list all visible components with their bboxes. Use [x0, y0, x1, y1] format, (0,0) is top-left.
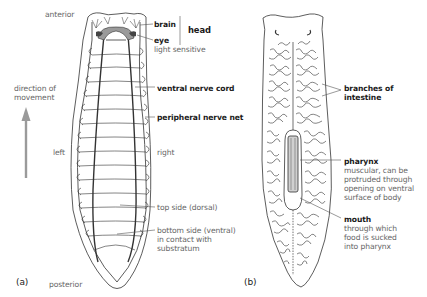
eye-label: eye [154, 36, 169, 45]
posterior-label: posterior [49, 280, 82, 289]
right-label: right [157, 148, 174, 157]
panel-b-body [262, 14, 331, 287]
panel-a-body [71, 13, 151, 289]
intestine-label-line2: intestine [344, 93, 381, 102]
ventral-nerve-cord-label: ventral nerve cord [157, 84, 234, 93]
brain-label: brain [154, 20, 176, 29]
movement-label-line2: movement [14, 93, 54, 102]
ventral-label-line3: substratum [157, 244, 200, 253]
pharynx-label: pharynx [344, 157, 378, 166]
ventral-label-line1: bottom side (ventral) [157, 226, 236, 235]
pharynx-note-line1: muscular, can be [344, 166, 408, 175]
panel-b-label: (b) [244, 278, 256, 287]
pharynx-note-line4: surface of body [344, 193, 402, 202]
movement-arrow [22, 107, 31, 178]
ventral-label-line2: in contact with [157, 235, 212, 244]
dorsal-label: top side (dorsal) [157, 203, 217, 212]
pharynx-note-line3: opening on ventral [344, 184, 414, 193]
brain-ganglia [96, 27, 136, 40]
eye-note: light sensitive [154, 45, 206, 54]
peripheral-nerve-net-label: peripheral nerve net [157, 113, 243, 122]
mouth-note-line1: through which [344, 224, 397, 233]
mouth-label: mouth [344, 215, 371, 224]
panel-a-label: (a) [16, 278, 28, 287]
left-label: left [53, 148, 65, 157]
pharynx-note-line2: protruded through [344, 175, 412, 184]
anterior-label: anterior [45, 10, 74, 19]
mouth-note-line3: into pharynx [344, 242, 391, 251]
mouth-note-line2: food is sucked [344, 233, 397, 242]
intestine-label-line1: branches of [344, 84, 393, 93]
head-label: head [188, 26, 211, 35]
movement-label-line1: direction of [14, 84, 56, 93]
